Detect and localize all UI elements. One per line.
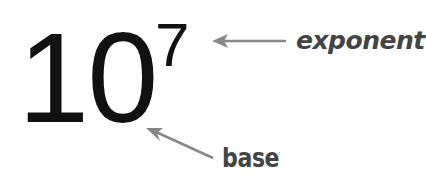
base-arrow-icon <box>146 128 213 158</box>
base-label: base <box>222 143 279 173</box>
exponent-arrow-icon <box>212 34 286 48</box>
exponent-label: exponent <box>296 26 425 55</box>
